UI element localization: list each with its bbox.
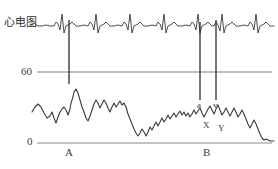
annotation-v-wave: v [213, 101, 218, 110]
segment-label-b: B [203, 147, 210, 158]
segment-label-a: A [65, 147, 73, 158]
timing-marker-lines [69, 20, 216, 100]
y-tick-label-60: 60 [21, 66, 32, 77]
y-tick-label-0: 0 [27, 136, 33, 147]
annotation-y-descent: Y [218, 124, 225, 133]
figure-canvas: 心电图 60 0 A B a v X Y [0, 0, 278, 169]
annotation-x-descent: X [203, 121, 210, 130]
waveform-svg [0, 0, 278, 169]
pressure-waveform-trace [32, 89, 274, 141]
ecg-axis-label: 心电图 [4, 17, 37, 28]
ecg-trace [30, 14, 274, 33]
annotation-a-wave: a [197, 101, 201, 110]
